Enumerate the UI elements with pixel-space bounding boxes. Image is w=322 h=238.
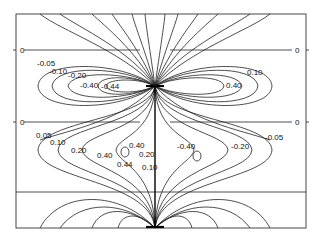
- label-left-mid: 0: [20, 118, 25, 127]
- contour-plot: 0 0 0 0 -0.05 -0.10 -0.20 -0.40 -0.44 0.…: [0, 0, 322, 238]
- label-pos-010-m: 0.10: [142, 163, 158, 172]
- label-pos-044: 0.44: [117, 160, 133, 169]
- label-left-top: 0: [20, 46, 25, 55]
- label-neg-010: -0.10: [49, 67, 68, 76]
- label-pos-020-m: 0.20: [139, 150, 155, 159]
- label-pos-010: 0.10: [247, 68, 263, 77]
- label-pos-020-l: 0.20: [71, 146, 87, 155]
- label-pos-010-l: 0.10: [50, 138, 66, 147]
- label-neg-020-r: -0.20: [231, 142, 250, 151]
- upper-right-contours: [155, 14, 272, 140]
- label-pos-040-l: 0.40: [97, 151, 113, 160]
- upper-left-contours: [38, 14, 155, 140]
- label-neg-005-r: -0.05: [265, 133, 284, 142]
- label-right-mid: 0: [295, 118, 300, 127]
- label-neg-020: -0.20: [68, 71, 87, 80]
- label-neg-044: -0.44: [101, 82, 120, 91]
- label-pos-040: 0.40: [226, 81, 242, 90]
- label-neg-040: -0.40: [80, 81, 99, 90]
- label-right-top: 0: [295, 46, 300, 55]
- label-neg-040-r: -0.40: [177, 142, 196, 151]
- label-pos-040-m: 0.40: [129, 141, 145, 150]
